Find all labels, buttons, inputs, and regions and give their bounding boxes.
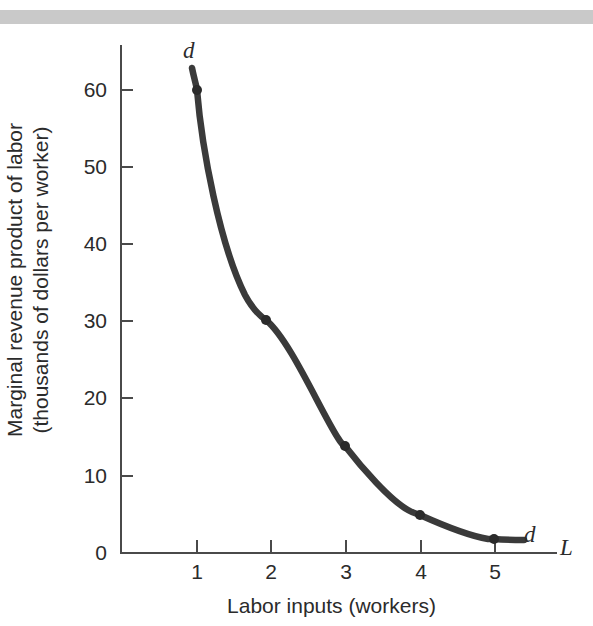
x-axis-symbol-label: L [560,535,573,561]
x-axis-title: Labor inputs (workers) [0,594,593,618]
demand-curve-svg [0,0,593,626]
curve-label-d-top: d [183,38,195,64]
y-axis-title-line1: Marginal revenue product of labor [2,123,28,437]
marker-core [193,86,201,94]
y-axis-title: Marginal revenue product of labor (thous… [0,0,56,560]
marker-core [490,535,498,543]
demand-curve-path [192,68,524,540]
figure-container: 60 50 40 30 20 10 0 1 2 3 4 5 [0,0,593,626]
curve-label-d-end: d [524,522,536,548]
marker-core [416,511,424,519]
marker-core [341,442,349,450]
marker-core [262,316,270,324]
chart-plot-area: 60 50 40 30 20 10 0 1 2 3 4 5 [0,0,593,626]
y-axis-title-line2: (thousands of dollars per worker) [28,127,54,434]
